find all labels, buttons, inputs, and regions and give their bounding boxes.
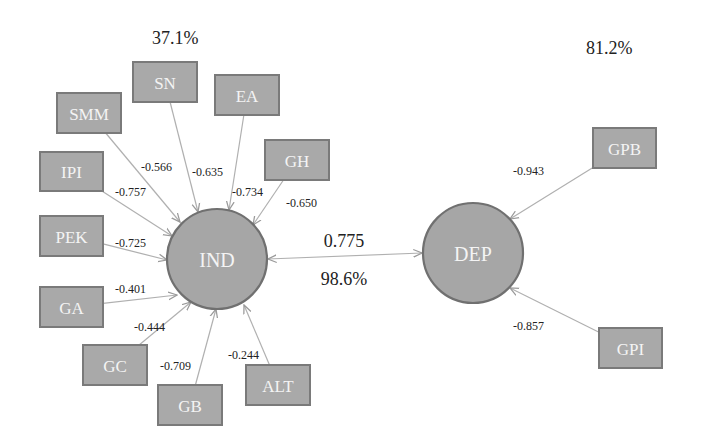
- indicator-label: GB: [178, 397, 202, 416]
- indicator-gpi[interactable]: GPI: [599, 328, 662, 368]
- indicator-gc[interactable]: GC: [83, 345, 147, 385]
- r-squared-ind: 37.1%: [152, 28, 199, 48]
- indicator-alt[interactable]: ALT: [246, 365, 310, 405]
- indicator-label: GPI: [617, 340, 645, 359]
- indicator-label: GH: [285, 152, 310, 171]
- indicator-sn[interactable]: SN: [133, 62, 197, 102]
- path-ind-dep: [268, 253, 422, 259]
- indicator-smm[interactable]: SMM: [57, 93, 121, 133]
- loading-alt: -0.244: [228, 348, 259, 362]
- structural-path: [268, 253, 422, 259]
- indicator-label: IPI: [61, 163, 82, 182]
- edge-smm-ind: [106, 133, 180, 222]
- indicator-ea[interactable]: EA: [215, 75, 279, 115]
- loading-gpi: -0.857: [513, 319, 544, 333]
- indicator-label: PEK: [55, 228, 88, 247]
- construct-dep[interactable]: DEP: [423, 203, 523, 303]
- construct-label: IND: [199, 249, 235, 271]
- indicator-label: GPB: [608, 140, 641, 159]
- r-squared-dep: 81.2%: [586, 38, 633, 58]
- edge-ga-ind: [103, 295, 177, 303]
- loading-ga: -0.401: [115, 282, 146, 296]
- loading-ea: -0.734: [232, 185, 263, 199]
- loading-gb: -0.709: [160, 359, 191, 373]
- sem-diagram: SNEASMMGHIPIPEKGAGCGBALTGPBGPIINDDEP -0.…: [0, 0, 706, 439]
- indicator-ipi[interactable]: IPI: [40, 152, 103, 191]
- indicator-label: GA: [59, 299, 84, 318]
- construct-label: DEP: [454, 243, 492, 265]
- loading-gh: -0.650: [286, 196, 317, 210]
- loading-smm: -0.566: [141, 160, 172, 174]
- loading-sn: -0.635: [192, 165, 223, 179]
- path-percent: 98.6%: [321, 269, 368, 289]
- indicator-label: SMM: [69, 105, 109, 124]
- indicator-label: GC: [103, 357, 127, 376]
- construct-ind[interactable]: IND: [167, 209, 267, 309]
- indicator-gb[interactable]: GB: [158, 385, 222, 425]
- indicator-gpb[interactable]: GPB: [593, 128, 656, 168]
- loading-gc: -0.444: [134, 320, 165, 334]
- loading-ipi: -0.757: [115, 185, 146, 199]
- indicator-gh[interactable]: GH: [265, 140, 329, 180]
- loading-pek: -0.725: [115, 236, 146, 250]
- edge-sn-ind: [170, 102, 198, 212]
- indicator-pek[interactable]: PEK: [40, 216, 103, 256]
- indicator-label: SN: [154, 74, 176, 93]
- indicator-label: EA: [236, 87, 259, 106]
- loading-gpb: -0.943: [513, 164, 544, 178]
- path-coefficient: 0.775: [324, 231, 365, 251]
- edge-gb-ind: [195, 309, 216, 385]
- indicator-ga[interactable]: GA: [40, 287, 103, 327]
- indicator-label: ALT: [262, 377, 294, 396]
